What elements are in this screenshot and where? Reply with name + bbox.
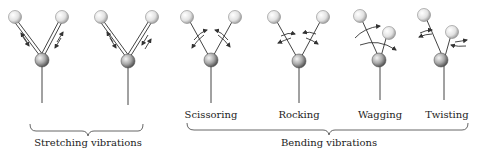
molecule-scissoring: Scissoring [181, 11, 242, 121]
molecule-twisting: Twisting [418, 9, 470, 121]
hydrogen-atom-right [446, 26, 459, 39]
arrow-right-atom-back [451, 45, 466, 46]
mode-label-scissoring: Scissoring [185, 109, 238, 120]
arrow-out-right [145, 39, 151, 49]
arrow-left-inward [194, 30, 207, 40]
central-atom [372, 53, 386, 67]
arrow-top-atom-forward [420, 30, 432, 33]
hydrogen-atom-top [354, 10, 367, 23]
vibration-modes-diagram: Scissoring Rocking Wagging [0, 0, 482, 152]
molecule-wagging: Wagging [354, 10, 403, 121]
group-label-bending: Bending vibrations [281, 137, 377, 148]
molecule-symmetric-stretch [9, 11, 69, 104]
hydrogen-atom-left [181, 11, 194, 24]
brace-stretching [30, 124, 143, 136]
central-atom [434, 53, 448, 67]
group-label-stretching: Stretching vibrations [34, 137, 142, 148]
bond-left-b [102, 19, 129, 56]
central-atom [121, 54, 135, 68]
bond-right-b [41, 19, 60, 55]
mode-label-wagging: Wagging [358, 109, 403, 120]
bond-left-a [13, 20, 40, 56]
hydrogen-atom-right [146, 11, 159, 24]
arrow-in-left [23, 37, 29, 46]
arrow-left-upper [281, 33, 295, 36]
hydrogen-atom-left [95, 11, 108, 24]
arrow-right-inward [215, 30, 228, 40]
mode-label-rocking: Rocking [278, 109, 320, 120]
bond-left-b [16, 19, 43, 55]
central-atom [292, 54, 306, 68]
central-atom [204, 53, 218, 67]
arrow-right-atom-forward [455, 40, 467, 42]
bond-right-a [44, 20, 63, 56]
mode-label-twisting: Twisting [425, 109, 469, 120]
hydrogen-atom-top [418, 9, 431, 22]
hydrogen-atom-left [268, 11, 281, 24]
molecule-rocking: Rocking [268, 11, 330, 121]
hydrogen-atom-right [383, 27, 396, 40]
arrow-lower-arc [360, 42, 396, 50]
central-atom [35, 53, 49, 67]
bond-right-a [130, 20, 153, 57]
bond-left-a [99, 20, 126, 57]
arrow-top-atom-back [419, 34, 432, 37]
hydrogen-atom-right [229, 11, 242, 24]
brace-bending [187, 123, 468, 135]
hydrogen-atom-right [317, 11, 330, 24]
hydrogen-atom-right [56, 11, 69, 24]
hydrogen-atom-left [9, 11, 22, 24]
molecule-asymmetric-stretch [95, 11, 159, 106]
arrow-right-lower [306, 38, 318, 44]
